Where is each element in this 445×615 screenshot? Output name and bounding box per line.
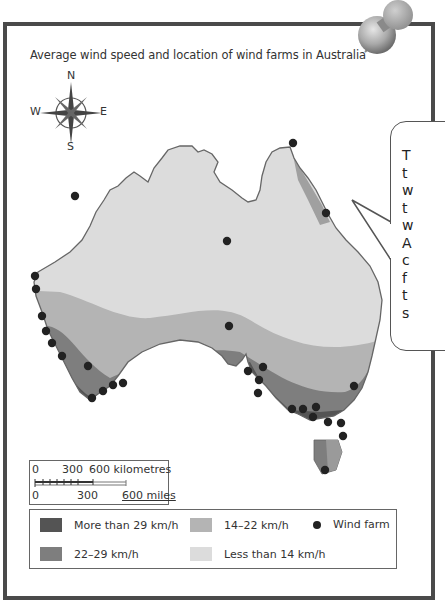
- compass-west-label: W: [30, 105, 41, 118]
- wind-farm-marker: [299, 405, 307, 413]
- legend-item-less-than-14: Less than 14 km/h: [190, 547, 325, 561]
- wind-farm-marker: [32, 285, 40, 293]
- bubble-line: t: [402, 165, 445, 183]
- wind-farm-marker: [288, 405, 296, 413]
- wind-farm-marker: [322, 209, 330, 217]
- wind-farm-marker: [48, 339, 56, 347]
- wind-farm-marker: [109, 381, 117, 389]
- wind-farm-marker: [58, 352, 66, 360]
- wind-farm-marker: [259, 363, 267, 371]
- legend-item-22-29: 22–29 km/h: [40, 547, 139, 561]
- compass-east-label: E: [100, 105, 107, 118]
- wind-farm-dot-icon: [313, 521, 321, 529]
- bubble-line: t: [402, 287, 445, 305]
- bubble-line: A: [402, 235, 445, 253]
- bubble-line: T: [402, 147, 445, 165]
- wind-farm-marker: [337, 419, 345, 427]
- bubble-line: w: [402, 217, 445, 235]
- wind-farm-marker: [254, 389, 262, 397]
- wind-farm-marker: [84, 362, 92, 370]
- legend-label: 22–29 km/h: [74, 548, 139, 561]
- compass-south-label: S: [67, 140, 74, 153]
- wind-farm-marker: [42, 327, 50, 335]
- scale-km-600: 600 kilometres: [89, 463, 171, 476]
- map-legend: More than 29 km/h 22–29 km/h 14–22 km/h …: [29, 509, 397, 569]
- wind-farm-marker: [350, 382, 358, 390]
- scale-mi-300: 300: [77, 489, 98, 502]
- legend-item-14-22: 14–22 km/h: [190, 518, 289, 532]
- bubble-line: c: [402, 252, 445, 270]
- scale-km-0: 0: [32, 463, 39, 476]
- scale-mi-600: 600 miles: [122, 489, 176, 502]
- wind-farm-marker: [255, 376, 263, 384]
- wind-farm-marker: [339, 432, 347, 440]
- wind-farm-marker: [223, 237, 231, 245]
- legend-label: Less than 14 km/h: [224, 548, 325, 561]
- compass-north-label: N: [67, 69, 75, 82]
- legend-swatch-icon: [190, 518, 212, 532]
- legend-label: Wind farm: [333, 518, 390, 531]
- wind-farm-marker: [119, 379, 127, 387]
- wind-farm-marker: [99, 387, 107, 395]
- legend-swatch-icon: [40, 518, 62, 532]
- bubble-line: t: [402, 200, 445, 218]
- wind-farm-marker: [324, 418, 332, 426]
- legend-item-more-than-29: More than 29 km/h: [40, 518, 179, 532]
- legend-label: More than 29 km/h: [74, 519, 179, 532]
- wind-farm-marker: [244, 367, 252, 375]
- wind-farm-marker: [289, 139, 297, 147]
- wind-farm-marker: [71, 192, 79, 200]
- bubble-line: s: [402, 305, 445, 323]
- legend-swatch-icon: [40, 547, 62, 561]
- wind-farm-marker: [225, 322, 233, 330]
- wind-farm-marker: [38, 312, 46, 320]
- legend-swatch-icon: [190, 547, 212, 561]
- scale-km-300: 300: [62, 463, 83, 476]
- scale-mi-0: 0: [32, 489, 39, 502]
- legend-label: 14–22 km/h: [224, 519, 289, 532]
- wind-farm-marker: [88, 394, 96, 402]
- legend-item-wind-farm: Wind farm: [313, 518, 390, 531]
- wind-farm-marker: [309, 413, 317, 421]
- wind-farm-marker: [312, 403, 320, 411]
- bubble-line: w: [402, 182, 445, 200]
- wind-farm-marker: [321, 466, 329, 474]
- bubble-line: f: [402, 270, 445, 288]
- speech-bubble-text: T t w t w A c f t s: [402, 147, 445, 322]
- wind-farm-marker: [31, 272, 39, 280]
